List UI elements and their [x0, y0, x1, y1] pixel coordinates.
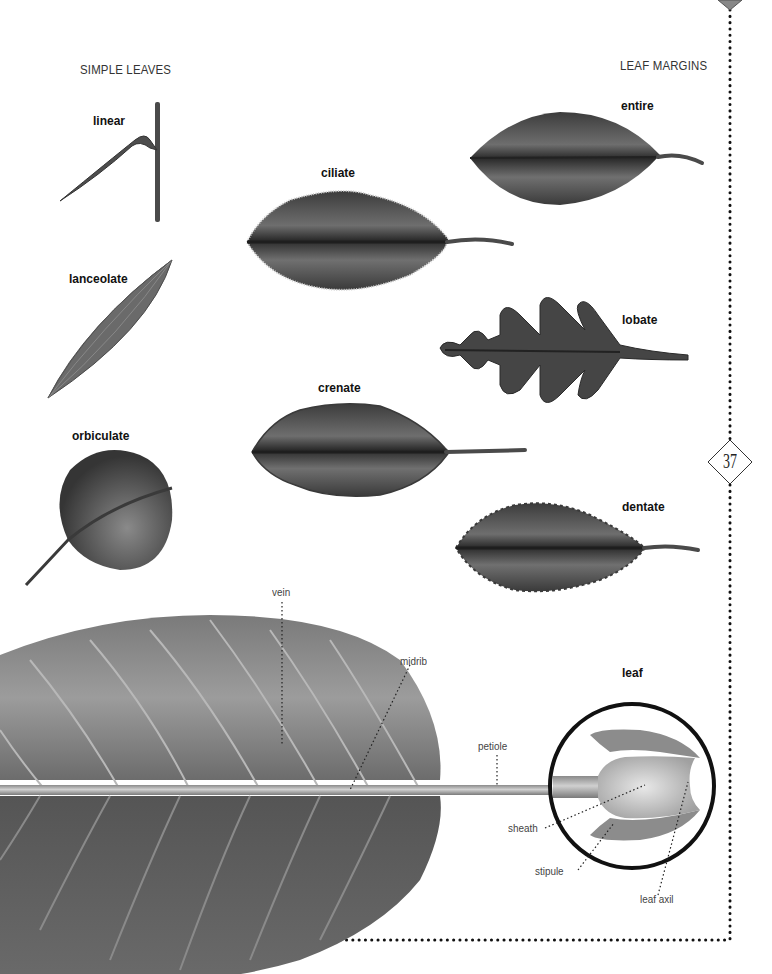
- callout-leaf-axil: leaf axil: [640, 893, 674, 905]
- callout-sheath: sheath: [508, 822, 538, 834]
- callout-vein: vein: [272, 586, 290, 598]
- page-number: 37: [723, 450, 737, 473]
- section-title-leaf-margins: LEAF MARGINS: [620, 58, 707, 73]
- large-leaf-illustration: [0, 615, 560, 974]
- callout-stipule: stipule: [535, 865, 564, 877]
- label-dentate: dentate: [622, 500, 665, 514]
- callout-midrib: midrib: [400, 655, 427, 667]
- label-linear: linear: [93, 114, 125, 128]
- crenate-leaf-icon: [252, 404, 525, 497]
- label-crenate: crenate: [318, 381, 361, 395]
- label-ciliate: ciliate: [321, 166, 355, 180]
- callout-petiole: petiole: [478, 740, 507, 752]
- page-number-badge: 37: [718, 450, 742, 473]
- section-title-simple-leaves: SIMPLE LEAVES: [80, 62, 171, 77]
- label-lobate: lobate: [622, 313, 657, 327]
- leaf-axil-magnifier: [550, 704, 714, 868]
- label-leaf: leaf: [622, 666, 643, 680]
- label-entire: entire: [621, 99, 654, 113]
- label-orbiculate: orbiculate: [72, 429, 129, 443]
- label-lanceolate: lanceolate: [69, 272, 128, 286]
- orbiculate-leaf-icon: [26, 450, 172, 585]
- dentate-leaf-icon: [456, 503, 698, 591]
- ciliate-leaf-icon: [247, 191, 512, 290]
- botany-illustration: [0, 0, 772, 974]
- entire-leaf-icon: [470, 112, 702, 205]
